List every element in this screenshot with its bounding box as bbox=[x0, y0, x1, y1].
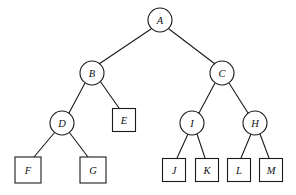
tree-edge-b-e bbox=[100, 81, 119, 108]
tree-node-b[interactable]: B bbox=[80, 61, 104, 85]
node-label-k: K bbox=[202, 165, 211, 176]
tree-edge-i-k bbox=[197, 134, 205, 158]
tree-edge-h-l bbox=[241, 134, 251, 158]
node-label-i: I bbox=[189, 118, 194, 129]
node-label-c: C bbox=[218, 68, 226, 79]
node-label-g: G bbox=[89, 165, 97, 176]
tree-edge-i-j bbox=[177, 134, 188, 158]
tree-node-h[interactable]: H bbox=[243, 111, 267, 135]
node-label-f: F bbox=[24, 165, 32, 176]
node-layer: ABCDEIHFGJKLM bbox=[15, 8, 283, 183]
tree-node-g[interactable]: G bbox=[80, 157, 106, 183]
node-label-m: M bbox=[266, 165, 277, 176]
tree-edge-c-h bbox=[229, 83, 248, 113]
node-label-l: L bbox=[235, 165, 242, 176]
tree-node-l[interactable]: L bbox=[228, 159, 251, 182]
tree-node-a[interactable]: A bbox=[148, 8, 172, 32]
tree-edge-b-d bbox=[69, 83, 85, 113]
tree-node-c[interactable]: C bbox=[210, 61, 234, 85]
tree-node-e[interactable]: E bbox=[113, 109, 136, 132]
tree-edge-d-f bbox=[34, 132, 55, 157]
node-label-a: A bbox=[156, 15, 164, 26]
tree-edge-c-i bbox=[199, 83, 215, 113]
tree-node-i[interactable]: I bbox=[180, 111, 204, 135]
tree-canvas: ABCDEIHFGJKLM bbox=[0, 0, 296, 195]
tree-node-d[interactable]: D bbox=[50, 111, 74, 135]
node-label-e: E bbox=[120, 115, 128, 126]
tree-edge-h-m bbox=[260, 134, 269, 158]
edge-layer bbox=[34, 29, 269, 158]
tree-edge-a-b bbox=[99, 29, 151, 64]
tree-node-k[interactable]: K bbox=[196, 159, 219, 182]
binary-tree-diagram: ABCDEIHFGJKLM bbox=[0, 0, 296, 195]
tree-node-j[interactable]: J bbox=[163, 159, 186, 182]
tree-node-f[interactable]: F bbox=[15, 157, 41, 183]
tree-node-m[interactable]: M bbox=[260, 159, 283, 182]
node-label-h: H bbox=[250, 118, 260, 129]
tree-edge-d-g bbox=[69, 132, 88, 157]
node-label-d: D bbox=[57, 118, 66, 129]
node-label-b: B bbox=[89, 68, 96, 79]
tree-edge-a-c bbox=[169, 29, 215, 64]
